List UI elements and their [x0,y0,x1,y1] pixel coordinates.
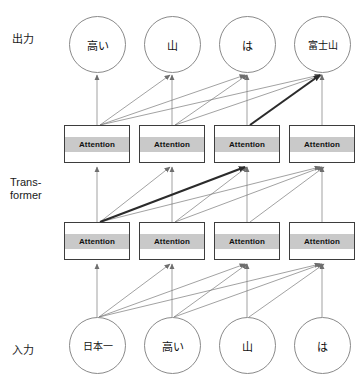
lower-attention-cell-4: Attention [289,222,355,260]
bold-edge-lower1-to-upper3 [100,167,245,222]
attention-label: Attention [215,137,279,152]
edges-input-to-lower-attention [97,264,324,317]
output-token-2: 山 [144,16,201,73]
lower-attention-cell-3: Attention [214,222,280,260]
input-token-4: は [294,317,351,374]
attention-label: Attention [290,234,354,249]
output-token-3: は [219,16,276,73]
edges-lower-to-upper-attention [97,167,324,222]
attention-label: Attention [140,234,204,249]
input-token-3: 山 [219,317,276,374]
attention-label: Attention [215,234,279,249]
lower-attention-cell-2: Attention [139,222,205,260]
attention-label: Attention [290,137,354,152]
output-token-1: 高い [69,16,126,73]
edges-upper-attention-to-output [97,75,322,125]
row-label-output: 出力 [12,33,34,46]
output-token-4: 富士山 [294,16,351,73]
upper-attention-cell-4: Attention [289,125,355,163]
upper-attention-cell-1: Attention [64,125,130,163]
attention-label: Attention [65,234,129,249]
attention-label: Attention [65,137,129,152]
row-label-transformer: Trans- former [10,176,42,202]
bold-edge-upper3-to-output4 [250,75,320,125]
row-label-input: 入力 [12,344,34,357]
upper-attention-cell-3: Attention [214,125,280,163]
input-token-2: 高い [144,317,201,374]
input-token-1: 日本一 [69,317,126,374]
upper-attention-cell-2: Attention [139,125,205,163]
attention-label: Attention [140,137,204,152]
lower-attention-cell-1: Attention [64,222,130,260]
